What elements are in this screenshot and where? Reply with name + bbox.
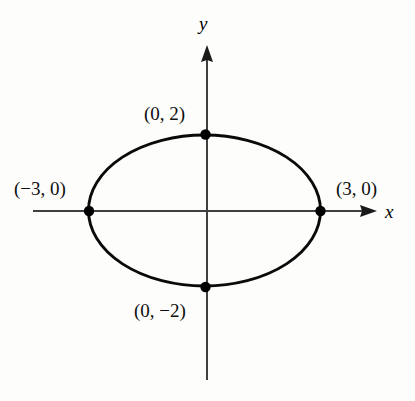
point-marker-right[interactable] (315, 206, 325, 216)
x-axis-arrowhead (360, 205, 377, 217)
y-axis-arrowhead (201, 45, 213, 62)
point-marker-bottom[interactable] (200, 282, 210, 292)
point-marker-top[interactable] (200, 129, 210, 139)
point-label-bottom: (0, −2) (134, 301, 186, 320)
point-label-left: (−3, 0) (14, 179, 66, 198)
point-label-right: (3, 0) (336, 179, 377, 198)
coordinate-plane-svg (0, 0, 415, 401)
ellipse-figure: y x (0, 2) (−3, 0) (3, 0) (0, −2) (0, 0, 415, 401)
point-label-top: (0, 2) (144, 104, 185, 123)
point-marker-left[interactable] (84, 206, 94, 216)
y-axis-label: y (199, 14, 207, 33)
x-axis-label: x (385, 202, 393, 221)
